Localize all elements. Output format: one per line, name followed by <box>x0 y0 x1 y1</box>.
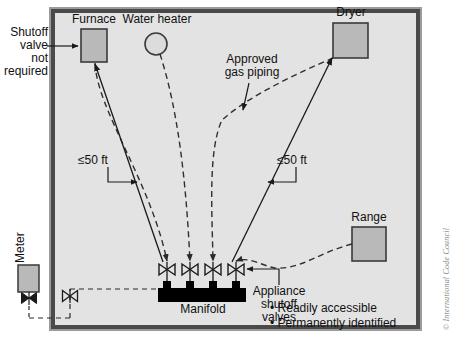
label-manifold: Manifold <box>172 303 234 316</box>
dryer-box <box>333 23 368 58</box>
appliance-range <box>352 227 386 261</box>
appliance-dryer <box>333 23 368 58</box>
manifold-nipple-1 <box>163 281 171 289</box>
manifold-nipple-3 <box>209 281 217 289</box>
manifold-nipple-2 <box>186 281 194 289</box>
appliance-furnace <box>81 29 107 62</box>
gas-meter <box>18 265 39 318</box>
bullet-icon: • <box>270 316 274 330</box>
copyright-notice: © International Code Council <box>440 228 453 330</box>
diagram-canvas: Shutoff valve not required Furnace Water… <box>0 0 456 355</box>
label-meter: Meter <box>14 232 27 263</box>
shutoff-line-4: required <box>0 65 48 78</box>
notes-list: • Readily accessible • Permanently ident… <box>270 302 396 330</box>
appliance-water-heater <box>145 33 167 55</box>
bullet-icon: • <box>270 301 274 315</box>
note-item-2: • Permanently identified <box>270 317 396 330</box>
label-water-heater: Water heater <box>118 13 196 26</box>
label-dryer: Dryer <box>322 6 380 19</box>
furnace-box <box>81 29 107 62</box>
water-heater-circle <box>145 33 167 55</box>
manifold-body <box>158 288 246 302</box>
label-range: Range <box>341 211 397 224</box>
meter-box <box>18 265 39 292</box>
callout-approved-gas-piping: Approved gas piping <box>213 53 291 79</box>
callout-shutoff-not-required: Shutoff valve not required <box>0 26 48 78</box>
note-item-1: • Readily accessible <box>270 302 396 315</box>
note-1-text: Readily accessible <box>278 301 377 315</box>
approved-line-2: gas piping <box>213 66 291 79</box>
range-box <box>352 227 386 261</box>
label-distance-left: ≤50 ft <box>78 154 108 167</box>
label-distance-right: ≤50 ft <box>277 154 307 167</box>
label-furnace: Furnace <box>63 13 125 26</box>
note-2-text: Permanently identified <box>278 316 397 330</box>
meter-shutoff-valve <box>22 292 37 305</box>
